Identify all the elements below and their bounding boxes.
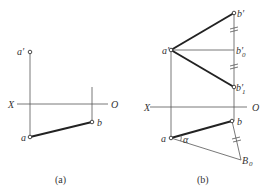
line-ab-horizontal <box>30 122 92 137</box>
line-a-B0-true-length <box>171 138 241 160</box>
point-b-prime <box>232 11 236 15</box>
label-a: a <box>161 133 166 144</box>
label-a: a <box>21 132 26 143</box>
point-b <box>90 120 94 124</box>
panel-a: a′ a b X O (a) <box>7 46 118 186</box>
line-a-prime-b-prime <box>171 13 234 50</box>
projection-diagram: a′ a b X O (a) a′ b′ <box>0 0 262 195</box>
label-b: b <box>97 117 102 128</box>
label-b0-prime-sub: 0 <box>242 51 246 59</box>
label-a-prime: a′ <box>17 46 25 57</box>
label-b-prime: b′ <box>237 8 245 19</box>
axis-label-o: O <box>111 99 118 110</box>
point-a <box>169 136 173 140</box>
label-alpha: α <box>183 134 189 145</box>
label-a-prime: a′ <box>162 45 170 56</box>
line-a-prime-b1-prime <box>171 50 234 87</box>
point-a-prime <box>28 50 32 54</box>
label-b1-prime-sub: 1 <box>242 88 246 96</box>
axis-label-x: X <box>7 99 15 110</box>
point-b <box>230 119 234 123</box>
caption-a: (a) <box>55 174 66 186</box>
label-b: b <box>237 116 242 127</box>
axis-label-x: X <box>143 102 151 113</box>
line-ab-horizontal <box>171 121 232 138</box>
axis-label-o: O <box>252 102 259 113</box>
panel-b: a′ b′ b′ 0 b′ 1 a b α B 0 X O (b) <box>143 8 259 186</box>
label-B0: B <box>242 155 248 166</box>
caption-b: (b) <box>197 174 209 186</box>
point-a-prime <box>169 48 173 52</box>
point-a <box>28 135 32 139</box>
label-B0-sub: 0 <box>249 160 253 168</box>
